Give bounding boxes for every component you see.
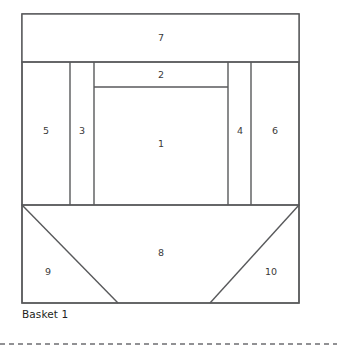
piece-label-9: 9 [45,266,51,277]
quilt-block-diagram-page: 7 2 5 3 1 4 6 8 9 10 Basket 1 [0,0,337,360]
piece-label-6: 6 [272,125,278,136]
piece-label-10: 10 [265,266,277,277]
piece-label-4: 4 [237,125,243,136]
piece-label-5: 5 [43,125,49,136]
piece-label-8: 8 [158,247,164,258]
basket-block-diagram: 7 2 5 3 1 4 6 8 9 10 [0,0,337,360]
piece-label-3: 3 [79,125,85,136]
figure-caption: Basket 1 [22,308,68,320]
piece-label-1: 1 [158,138,164,149]
piece-label-2: 2 [158,69,164,80]
piece-label-7: 7 [158,32,164,43]
